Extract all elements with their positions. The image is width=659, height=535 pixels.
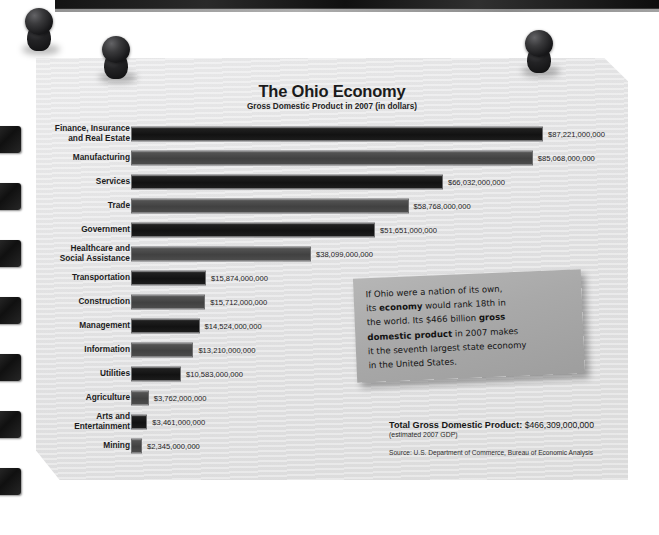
- bar-value-label: $51,651,000,000: [380, 226, 437, 235]
- bar-container: $87,221,000,000: [131, 127, 620, 142]
- bar-value-label: $87,221,000,000: [548, 130, 605, 139]
- binder-tab: [0, 240, 21, 267]
- category-label-line: Entertainment: [74, 421, 130, 431]
- total-gdp-label: Total Gross Domestic Product:: [389, 420, 522, 430]
- bar: [131, 271, 206, 286]
- bar-value-label: $10,583,000,000: [186, 370, 243, 379]
- category-label-line: Transportation: [72, 272, 130, 282]
- bar: [131, 223, 375, 238]
- bar-value-label: $13,210,000,000: [198, 346, 255, 355]
- note-line-4b: in 2007 makes: [452, 326, 518, 339]
- callout-note-text: If Ohio were a nation of its own, its ec…: [365, 279, 573, 373]
- chart-row: Government$51,651,000,000: [36, 218, 628, 242]
- category-label-line: Arts and: [96, 411, 130, 421]
- note-line-1: If Ohio were a nation of its own,: [365, 284, 502, 300]
- category-label-line: Trade: [108, 200, 130, 210]
- top-dark-band: [55, 0, 659, 9]
- category-label-line: Agriculture: [86, 392, 130, 402]
- binder-tab: [0, 183, 21, 210]
- category-label-line: Utilities: [100, 368, 130, 378]
- bar-value-label: $66,032,000,000: [448, 178, 505, 187]
- bar: [131, 343, 193, 358]
- binder-tab: [0, 354, 21, 381]
- category-label-line: Social Assistance: [60, 253, 130, 263]
- bar: [131, 295, 205, 310]
- bar-container: $66,032,000,000: [131, 175, 620, 190]
- pushpin-shadow: [22, 44, 60, 55]
- category-label-line: Manufacturing: [73, 152, 130, 162]
- bar: [131, 415, 147, 430]
- pushpin-head: [525, 30, 553, 57]
- category-label-line: and Real Estate: [68, 133, 130, 143]
- footer-block: Total Gross Domestic Product: $466,309,0…: [389, 420, 621, 456]
- bar: [131, 199, 409, 214]
- bar-container: $85,068,000,000: [131, 151, 620, 166]
- category-label-line: Services: [96, 176, 130, 186]
- bar: [131, 439, 142, 454]
- chart-row: Finance, Insuranceand Real Estate$87,221…: [36, 122, 628, 146]
- note-line-6: in the United States.: [368, 357, 457, 371]
- bar-container: $3,762,000,000: [131, 391, 620, 406]
- note-bold-gross: gross: [479, 312, 506, 323]
- bar-value-label: $15,874,000,000: [211, 274, 268, 283]
- bar: [131, 391, 149, 406]
- note-line-2c: would rank 18th in: [422, 298, 506, 311]
- bar: [131, 175, 443, 190]
- bar-value-label: $38,099,000,000: [316, 250, 373, 259]
- chart-row: Trade$58,768,000,000: [36, 194, 628, 218]
- bar-value-label: $3,762,000,000: [154, 394, 207, 403]
- binder-tab: [0, 297, 21, 324]
- category-label-line: Mining: [103, 440, 130, 450]
- binder-tab: [0, 126, 21, 153]
- bar-value-label: $3,461,000,000: [152, 418, 205, 427]
- bar-value-label: $15,712,000,000: [210, 298, 267, 307]
- source-line: Source: U.S. Department of Commerce, Bur…: [389, 449, 621, 456]
- bar: [131, 319, 200, 334]
- binder-tab-strip: [0, 126, 26, 526]
- note-bold-domestic-product: domestic product: [367, 328, 452, 342]
- callout-note: If Ohio were a nation of its own, its ec…: [353, 269, 585, 382]
- bar: [131, 367, 181, 382]
- bar-container: $51,651,000,000: [131, 223, 620, 238]
- note-line-3a: the world. Its $466 billion: [367, 313, 479, 328]
- page-title: The Ohio Economy: [36, 82, 628, 101]
- bar-value-label: $58,768,000,000: [414, 202, 471, 211]
- category-label-line: Government: [81, 224, 130, 234]
- page-subtitle: Gross Domestic Product in 2007 (in dolla…: [36, 102, 628, 111]
- bar: [131, 151, 533, 166]
- binder-tab: [0, 468, 21, 495]
- pushpin-top-left: [22, 8, 56, 54]
- bar-container: $38,099,000,000: [131, 247, 620, 262]
- chart-row: Healthcare andSocial Assistance$38,099,0…: [36, 242, 628, 266]
- note-line-2a: its: [366, 303, 379, 314]
- chart-row: Agriculture$3,762,000,000: [36, 386, 628, 410]
- bar-value-label: $85,068,000,000: [538, 154, 595, 163]
- note-bold-economy: economy: [379, 301, 423, 313]
- binder-tab: [0, 411, 21, 438]
- bar-value-label: $2,345,000,000: [147, 442, 200, 451]
- pushpin-head: [25, 8, 53, 35]
- bar: [131, 247, 311, 262]
- category-label-line: Construction: [78, 296, 130, 306]
- category-label-line: Finance, Insurance: [55, 123, 130, 133]
- total-gdp-line: Total Gross Domestic Product: $466,309,0…: [389, 420, 621, 430]
- total-gdp-value: $466,309,000,000: [525, 420, 594, 430]
- pushpin-body: [27, 23, 51, 51]
- chart-row: Manufacturing$85,068,000,000: [36, 146, 628, 170]
- bar-container: $58,768,000,000: [131, 199, 620, 214]
- category-label-line: Information: [84, 344, 130, 354]
- note-line-5: it the seventh largest state economy: [368, 339, 527, 356]
- category-label-line: Management: [79, 320, 130, 330]
- category-label-line: Healthcare and: [71, 243, 130, 253]
- poster-sheet: The Ohio Economy Gross Domestic Product …: [36, 58, 628, 480]
- screenshot-root: The Ohio Economy Gross Domestic Product …: [0, 0, 659, 535]
- estimate-note: (estimated 2007 GDP): [389, 431, 621, 438]
- chart-row: Services$66,032,000,000: [36, 170, 628, 194]
- bar-value-label: $14,524,000,000: [205, 322, 262, 331]
- bar: [131, 127, 543, 142]
